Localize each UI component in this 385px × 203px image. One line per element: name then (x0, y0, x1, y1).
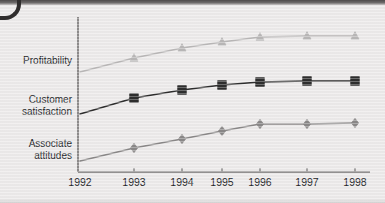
x-axis-tick-labels: 1992199319941995199619971998 (78, 176, 370, 192)
marker-diamond (256, 119, 263, 128)
x-axis-tick-label: 1995 (202, 176, 242, 188)
x-axis-tick-label: 1997 (287, 176, 327, 188)
series-customer-satisfaction (80, 77, 359, 114)
marker-diamond (130, 143, 137, 152)
series-line (80, 36, 355, 72)
series-label-profitability: Profitability (2, 55, 72, 67)
marker-diamond (303, 119, 310, 128)
series-label-associate-attitudes: Associate attitudes (2, 138, 72, 162)
marker-diamond (178, 134, 185, 143)
data-series (80, 32, 359, 161)
marker-square (303, 77, 312, 86)
marker-square (130, 94, 139, 103)
series-line (80, 123, 355, 161)
series-profitability (80, 32, 359, 72)
x-axis-tick-label: 1994 (162, 176, 202, 188)
marker-diamond (351, 118, 358, 127)
x-axis-tick-label: 1992 (60, 176, 100, 188)
marker-square (256, 78, 265, 87)
marker-square (351, 77, 360, 86)
x-axis-tick-label: 1993 (114, 176, 154, 188)
x-axis-tick-label: 1998 (335, 176, 375, 188)
chart-figure: Profitability Customer satisfaction Asso… (0, 0, 385, 203)
series-associate-attitudes (80, 118, 359, 161)
axes (78, 17, 370, 172)
x-axis-tick-label: 1996 (240, 176, 280, 188)
series-label-customer-satisfaction: Customer satisfaction (2, 94, 72, 118)
marker-diamond (218, 126, 225, 135)
marker-square (178, 86, 187, 95)
scan-bottom-shade (0, 199, 385, 203)
scan-top-band (0, 0, 385, 5)
marker-square (218, 81, 227, 90)
